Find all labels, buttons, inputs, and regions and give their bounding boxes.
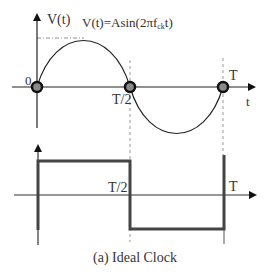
figure-caption: (a) Ideal Clock [93,250,177,266]
sine-plot: V(t) V(t)=Asin(2πfckt) 0 T/2 T t [12,12,254,242]
square-wave-plot: T/2 T [14,146,255,245]
zero-crossing-marker-half-period [125,82,135,92]
square-wave-signal [38,155,224,230]
sine-period-label: T [229,68,238,83]
origin-label: 0 [25,73,32,88]
zero-crossing-marker-origin [32,82,42,92]
ideal-clock-diagram: V(t) V(t)=Asin(2πfckt) 0 T/2 T t T/2 T (… [0,0,270,278]
square-half-period-label: T/2 [108,180,127,195]
y-axis-label: V(t) [47,12,71,28]
x-axis-label: t [246,94,250,109]
sine-equation: V(t)=Asin(2πfckt) [82,15,173,31]
zero-crossing-marker-period [218,82,228,92]
sine-half-period-label: T/2 [112,92,131,107]
square-period-label: T [229,179,238,194]
